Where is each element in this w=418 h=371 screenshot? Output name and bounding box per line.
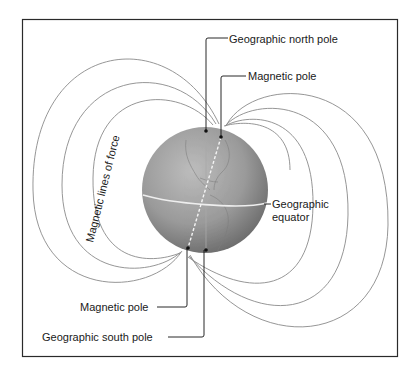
earth-globe (142, 127, 268, 253)
geographic-south-pole-dot (204, 248, 208, 252)
label-geographic-south-pole: Geographic south pole (42, 331, 153, 343)
label-magnetic-pole-south: Magnetic pole (80, 301, 149, 313)
label-geographic-equator-1: Geographic (272, 198, 329, 210)
label-geographic-equator-2: equator (272, 211, 310, 223)
diagram-canvas: Geographic north pole Magnetic pole Geog… (0, 0, 418, 371)
label-magnetic-pole-north: Magnetic pole (248, 70, 317, 82)
label-geographic-north-pole: Geographic north pole (229, 33, 338, 45)
